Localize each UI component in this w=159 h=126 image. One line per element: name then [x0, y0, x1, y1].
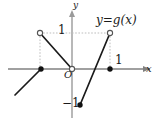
y-tick-one-label: 1	[58, 24, 66, 36]
open-point-upper-right	[107, 30, 112, 35]
solid-point-left-axis	[38, 66, 43, 71]
graph-figure: y=g(x) y x O 1 1 −1	[0, 0, 159, 126]
x-tick-one-label: 1	[115, 54, 123, 66]
y-tick-negative-one-label: −1	[62, 97, 80, 109]
guide-lines-group	[40, 33, 110, 69]
origin-label: O	[64, 70, 72, 80]
open-point-upper-left	[37, 30, 42, 35]
y-axis-label: y	[73, 1, 78, 10]
segment-upper-left	[40, 33, 72, 69]
y-axis-arrow	[69, 10, 75, 17]
solid-point-x-one	[107, 66, 112, 71]
x-axis-label: x	[146, 64, 152, 74]
function-label: y=g(x)	[96, 14, 137, 26]
segment-left-ray	[15, 69, 41, 95]
